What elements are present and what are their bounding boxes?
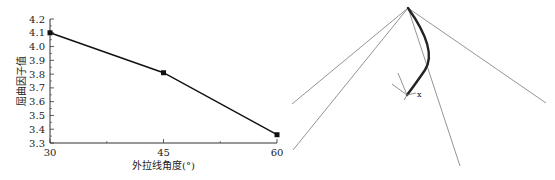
chart-svg: 3.33.43.53.63.73.83.94.04.14.2304560外拉线角…	[0, 0, 285, 180]
y-tick-label: 4.1	[29, 27, 45, 38]
x-tick-label: 60	[271, 147, 284, 158]
y-tick-label: 4.2	[29, 14, 45, 25]
data-point-marker	[48, 30, 53, 35]
x-axis-label: 外拉线角度(°)	[132, 159, 195, 171]
y-tick-label: 4.0	[29, 41, 45, 52]
y-tick-label: 3.3	[29, 138, 45, 149]
data-point-marker	[161, 70, 166, 75]
x-tick-label: 45	[157, 147, 170, 158]
x-tick-label: 30	[44, 147, 57, 158]
y-tick-label: 3.7	[29, 82, 45, 93]
y-tick-label: 3.5	[29, 110, 45, 121]
diagram-svg: x	[285, 0, 555, 180]
buckled-member	[407, 8, 429, 95]
y-tick-label: 3.6	[29, 96, 45, 107]
y-tick-label: 3.8	[29, 69, 45, 80]
buckling-mode-diagram: x	[285, 0, 555, 180]
y-tick-label: 3.9	[29, 55, 45, 66]
data-point-marker	[275, 132, 280, 137]
cable-front	[408, 8, 460, 166]
data-line	[50, 33, 277, 135]
y-tick-label: 3.4	[29, 124, 45, 135]
axis-label-x: x	[417, 90, 422, 99]
cable-left-inner	[293, 8, 408, 150]
cable-left-outer	[292, 8, 408, 104]
buckling-factor-chart: 3.33.43.53.63.73.83.94.04.14.2304560外拉线角…	[0, 0, 285, 180]
y-axis-label: 屈曲因子值	[15, 56, 27, 106]
